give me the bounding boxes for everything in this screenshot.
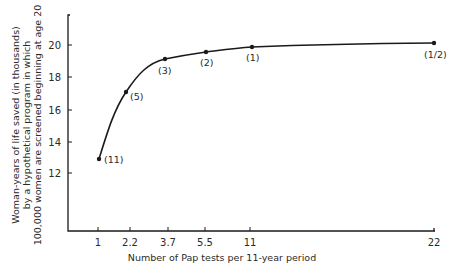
x-tick-label: 11 xyxy=(244,237,257,248)
x-tick-label: 5.5 xyxy=(197,237,213,248)
y-tick-label: 18 xyxy=(48,72,61,83)
x-tick-label: 2.2 xyxy=(122,237,138,248)
y-tick-label: 14 xyxy=(48,137,61,148)
data-point xyxy=(250,45,254,49)
data-point xyxy=(432,41,436,45)
y-axis-title-line: 100,000 women are screened beginning at … xyxy=(32,5,43,246)
data-points xyxy=(97,41,436,161)
point-label: (1) xyxy=(246,52,259,63)
point-label: (11) xyxy=(104,154,124,165)
chart: 20 18 16 14 12 1 2.2 3.7 5.5 11 22 Numbe… xyxy=(0,0,460,273)
y-tick-labels: 20 18 16 14 12 xyxy=(48,40,61,179)
point-label: (1/2) xyxy=(424,49,447,60)
y-tick-label: 20 xyxy=(48,40,61,51)
point-label: (5) xyxy=(130,91,143,102)
x-axis-title: Number of Pap tests per 11-year period xyxy=(128,252,316,263)
y-axis-title-line: by a hypothetical program in which xyxy=(21,41,32,210)
x-tick-label: 3.7 xyxy=(160,237,176,248)
x-tick-label: 22 xyxy=(428,237,441,248)
data-curve xyxy=(99,43,434,159)
data-point xyxy=(204,50,208,54)
x-tick-label: 1 xyxy=(95,237,101,248)
data-point xyxy=(124,90,128,94)
y-axis-title: Woman-years of life saved (in thousands)… xyxy=(10,5,43,246)
y-axis-title-line: Woman-years of life saved (in thousands) xyxy=(10,26,21,224)
x-tick-labels: 1 2.2 3.7 5.5 11 22 xyxy=(95,237,441,248)
point-labels: (11) (5) (3) (2) (1) (1/2) xyxy=(104,49,447,165)
point-label: (2) xyxy=(200,57,213,68)
point-label: (3) xyxy=(158,65,171,76)
data-point xyxy=(97,157,101,161)
y-tick-label: 12 xyxy=(48,168,61,179)
y-tick-label: 16 xyxy=(48,105,61,116)
data-point xyxy=(163,57,167,61)
